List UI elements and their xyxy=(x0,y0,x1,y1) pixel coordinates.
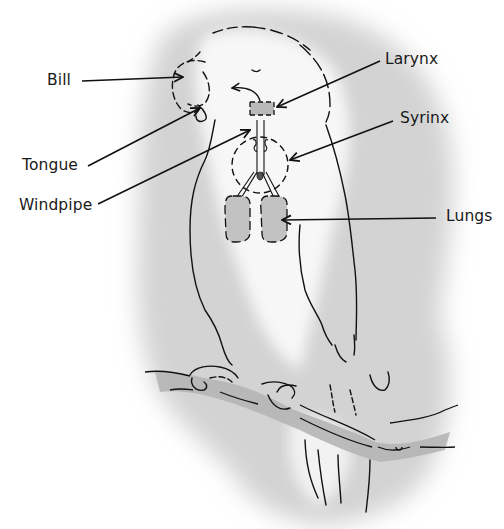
label-lungs: Lungs xyxy=(446,209,492,225)
label-windpipe: Windpipe xyxy=(19,198,92,214)
label-tongue: Tongue xyxy=(22,158,78,174)
label-larynx: Larynx xyxy=(385,52,438,68)
parrot-anatomy-diagram: Bill Larynx Syrinx Tongue Windpipe Lungs xyxy=(0,0,504,529)
larynx-shape xyxy=(250,102,274,115)
label-syrinx: Syrinx xyxy=(400,111,449,127)
label-bill: Bill xyxy=(47,73,71,89)
parrot-illustration xyxy=(0,0,504,529)
